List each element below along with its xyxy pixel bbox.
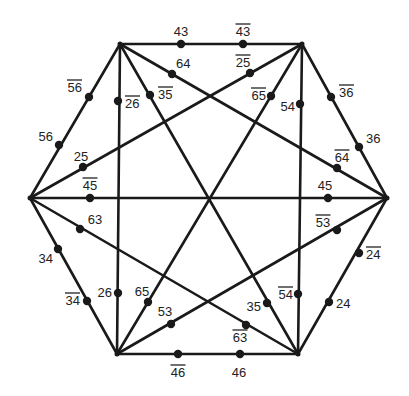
point-label: 63: [88, 212, 102, 227]
point-label: 26: [98, 285, 112, 300]
edge-layer: [30, 44, 387, 354]
point-65: [144, 298, 152, 306]
point-45: [324, 194, 332, 202]
point-label: 25: [236, 55, 250, 70]
point-bar-24: [355, 249, 363, 257]
point-label: 64: [335, 150, 349, 165]
edge-l-tl: [30, 44, 120, 198]
point-label: 46: [171, 365, 185, 380]
point-53: [167, 320, 175, 328]
point-36: [355, 143, 363, 151]
edge-r-br: [298, 198, 387, 354]
point-label: 65: [135, 284, 149, 299]
point-label: 56: [68, 80, 82, 95]
point-label: 53: [158, 304, 172, 319]
point-label: 25: [74, 149, 88, 164]
edge-r-bl: [117, 198, 387, 354]
point-43: [177, 40, 185, 48]
point-35: [263, 299, 271, 307]
point-63: [76, 225, 84, 233]
edge-bl-l: [30, 198, 117, 354]
point-bar-65: [267, 92, 275, 100]
vertex-br: [296, 352, 301, 357]
point-label: 26: [125, 96, 139, 111]
hexagon-diagram: 4343642535652654565636362564454563533424…: [0, 0, 409, 396]
point-label: 36: [339, 85, 353, 100]
vertex-tl: [118, 42, 123, 47]
point-bar-34: [83, 297, 91, 305]
point-54: [296, 100, 304, 108]
point-label: 54: [279, 287, 293, 302]
point-bar-56: [85, 93, 93, 101]
vertex-r: [385, 196, 390, 201]
point-label: 63: [233, 330, 247, 345]
vertex-l: [28, 196, 33, 201]
point-label: 45: [318, 178, 332, 193]
point-label: 46: [232, 365, 246, 380]
point-64: [168, 70, 176, 78]
point-24: [325, 298, 333, 306]
point-label: 35: [247, 299, 261, 314]
point-bar-63: [242, 321, 250, 329]
point-bar-53: [333, 226, 341, 234]
point-bar-45: [86, 194, 94, 202]
point-label: 24: [336, 296, 350, 311]
point-bar-43: [239, 40, 247, 48]
point-label: 35: [158, 87, 172, 102]
point-bar-35: [146, 91, 154, 99]
point-label: 43: [174, 24, 188, 39]
edge-tl-r: [120, 44, 387, 198]
point-25: [79, 163, 87, 171]
point-46: [236, 350, 244, 358]
point-label: 53: [316, 215, 330, 230]
point-bar-54: [294, 290, 302, 298]
point-label: 56: [39, 129, 53, 144]
edge-l-br: [30, 198, 298, 354]
point-label: 65: [252, 88, 266, 103]
point-26: [114, 289, 122, 297]
vertex-bl: [115, 352, 120, 357]
point-label: 34: [66, 293, 80, 308]
point-bar-26: [114, 97, 122, 105]
edge-tr-l: [30, 44, 302, 198]
point-label: 36: [366, 131, 380, 146]
point-label: 54: [281, 99, 295, 114]
point-bar-64: [333, 164, 341, 172]
point-label: 43: [236, 24, 250, 39]
point-bar-25: [246, 69, 254, 77]
point-label: 45: [83, 178, 97, 193]
point-56: [55, 141, 63, 149]
point-bar-36: [327, 93, 335, 101]
point-34: [54, 245, 62, 253]
point-bar-46: [174, 350, 182, 358]
point-label: 34: [39, 251, 53, 266]
point-label: 24: [366, 247, 380, 262]
point-label: 64: [176, 56, 190, 71]
vertex-tr: [300, 42, 305, 47]
